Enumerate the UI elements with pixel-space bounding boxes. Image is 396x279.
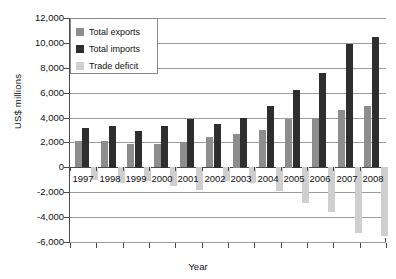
x-axis-bottom-tick [149, 243, 150, 248]
y-axis-tick-label: 4,000 [4, 113, 64, 123]
bar-total-exports [259, 130, 266, 167]
x-axis-bottom-tick [228, 243, 229, 248]
y-axis-tick-label: -4,000 [4, 212, 64, 222]
x-axis-bottom-tick [202, 243, 203, 248]
bar-total-exports [364, 106, 371, 167]
x-axis-tick [202, 167, 203, 171]
x-axis-tick [254, 167, 255, 171]
bar-total-exports [285, 119, 292, 168]
x-axis-bottom-tick [70, 243, 71, 248]
legend-label-trade-deficit: Trade deficit [89, 61, 138, 71]
bar-total-imports [109, 126, 116, 168]
bar-total-exports [180, 142, 187, 167]
bar-total-imports [214, 124, 221, 168]
y-axis-tick-label: 2,000 [4, 137, 64, 147]
x-axis-bottom-tick [386, 243, 387, 248]
legend-item-trade-deficit: Trade deficit [76, 57, 153, 74]
x-axis-bottom-tick [281, 243, 282, 248]
legend-swatch-total-imports [76, 45, 84, 53]
x-axis-bottom-tick [123, 243, 124, 248]
bar-total-exports [154, 144, 161, 167]
x-axis-tick [96, 167, 97, 171]
gridline [70, 217, 386, 218]
bar-total-imports [187, 119, 194, 167]
bar-total-exports [312, 118, 319, 167]
bar-chart: US$ millions Year 12,00010,0008,0006,000… [0, 0, 396, 279]
y-axis-tick [64, 118, 70, 119]
chart-legend: Total exports Total imports Trade defici… [70, 18, 158, 74]
y-axis-tick-label: 10,000 [4, 38, 64, 48]
legend-swatch-total-exports [76, 28, 84, 36]
gridline [70, 93, 386, 94]
bar-total-imports [293, 90, 300, 168]
gridline [70, 192, 386, 193]
legend-label-total-exports: Total exports [89, 27, 140, 37]
x-axis-tick [228, 167, 229, 171]
x-axis-tick [281, 167, 282, 171]
x-axis-title: Year [0, 261, 396, 272]
bar-total-imports [319, 73, 326, 167]
bar-total-exports [127, 144, 134, 167]
bar-total-exports [75, 141, 82, 167]
y-axis-tick-label: 8,000 [4, 63, 64, 73]
y-axis-tick [64, 217, 70, 218]
x-axis-tick [360, 167, 361, 171]
y-axis-tick [64, 192, 70, 193]
y-axis-tick-label: 12,000 [4, 13, 64, 23]
x-axis-tick [123, 167, 124, 171]
bar-total-imports [240, 118, 247, 167]
y-axis-tick-label: 6,000 [4, 88, 64, 98]
bar-total-exports [101, 141, 108, 167]
x-axis-bottom-tick [333, 243, 334, 248]
x-axis-bottom-tick [175, 243, 176, 248]
y-axis-tick-label: -2,000 [4, 187, 64, 197]
legend-swatch-trade-deficit [76, 62, 84, 70]
x-axis-bottom-tick [254, 243, 255, 248]
y-axis-tick [64, 93, 70, 94]
bar-total-exports [233, 134, 240, 168]
bar-total-imports [372, 37, 379, 167]
bar-total-exports [338, 110, 345, 167]
bar-total-exports [206, 137, 213, 167]
legend-item-total-exports: Total exports [76, 23, 153, 40]
y-axis-tick-label: -6,000 [4, 237, 64, 247]
bar-total-imports [346, 44, 353, 167]
bar-total-imports [267, 106, 274, 168]
x-axis-tick [149, 167, 150, 171]
x-axis-tick [70, 167, 71, 171]
legend-item-total-imports: Total imports [76, 40, 153, 57]
bar-total-imports [161, 126, 168, 168]
bar-total-imports [82, 128, 89, 167]
x-axis-tick-label: 2008 [356, 174, 390, 184]
x-axis-tick [175, 167, 176, 171]
y-axis-tick-label: 0 [4, 162, 64, 172]
x-axis-bottom-tick [307, 243, 308, 248]
x-axis-tick [333, 167, 334, 171]
x-axis-bottom-tick [360, 243, 361, 248]
x-axis-tick [307, 167, 308, 171]
legend-label-total-imports: Total imports [89, 44, 140, 54]
bar-total-imports [135, 131, 142, 168]
y-axis-tick [64, 142, 70, 143]
x-axis-bottom-tick [96, 243, 97, 248]
